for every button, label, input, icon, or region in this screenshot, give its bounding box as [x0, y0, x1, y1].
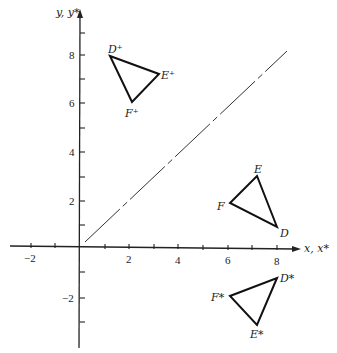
x-tick-label: 6 — [225, 254, 231, 266]
triangle-def-plus — [110, 56, 159, 102]
vertex-label-d-star: D* — [279, 272, 295, 285]
y-tick-label: 4 — [69, 146, 75, 158]
y-tick-label: 2 — [69, 195, 75, 207]
reflection-line-y-equals-x — [85, 51, 287, 242]
y-tick-label: 6 — [69, 97, 75, 109]
x-tick-label: −2 — [24, 252, 36, 264]
x-axis-arrow-icon — [292, 246, 301, 252]
vertex-label-e-plus: E⁺ — [160, 69, 175, 82]
triangle-def-star — [230, 278, 277, 325]
y-axis-label: y, y* — [55, 6, 80, 19]
y-tick-label: 8 — [69, 49, 75, 61]
vertex-label-f-star: F* — [210, 291, 225, 304]
x-tick-label: 4 — [175, 254, 181, 266]
triangle-def — [230, 176, 277, 227]
vertex-label-e: E — [253, 163, 262, 176]
coordinate-diagram: −2 2 4 6 8 8 6 4 2 −2 y, y* x, x* E F D … — [0, 0, 337, 353]
vertex-label-f: F — [216, 200, 225, 213]
y-tick-label: −2 — [62, 292, 74, 304]
x-tick-label: 8 — [274, 255, 280, 267]
vertex-label-f-plus: F⁺ — [124, 107, 139, 120]
x-axis — [10, 243, 301, 252]
x-axis-label: x, x* — [304, 242, 329, 255]
x-tick-label: 2 — [126, 253, 132, 265]
vertex-label-d-plus: D⁺ — [107, 43, 123, 56]
y-axis — [77, 9, 85, 348]
vertex-label-d: D — [279, 227, 289, 240]
vertex-label-e-star: E* — [249, 328, 264, 341]
